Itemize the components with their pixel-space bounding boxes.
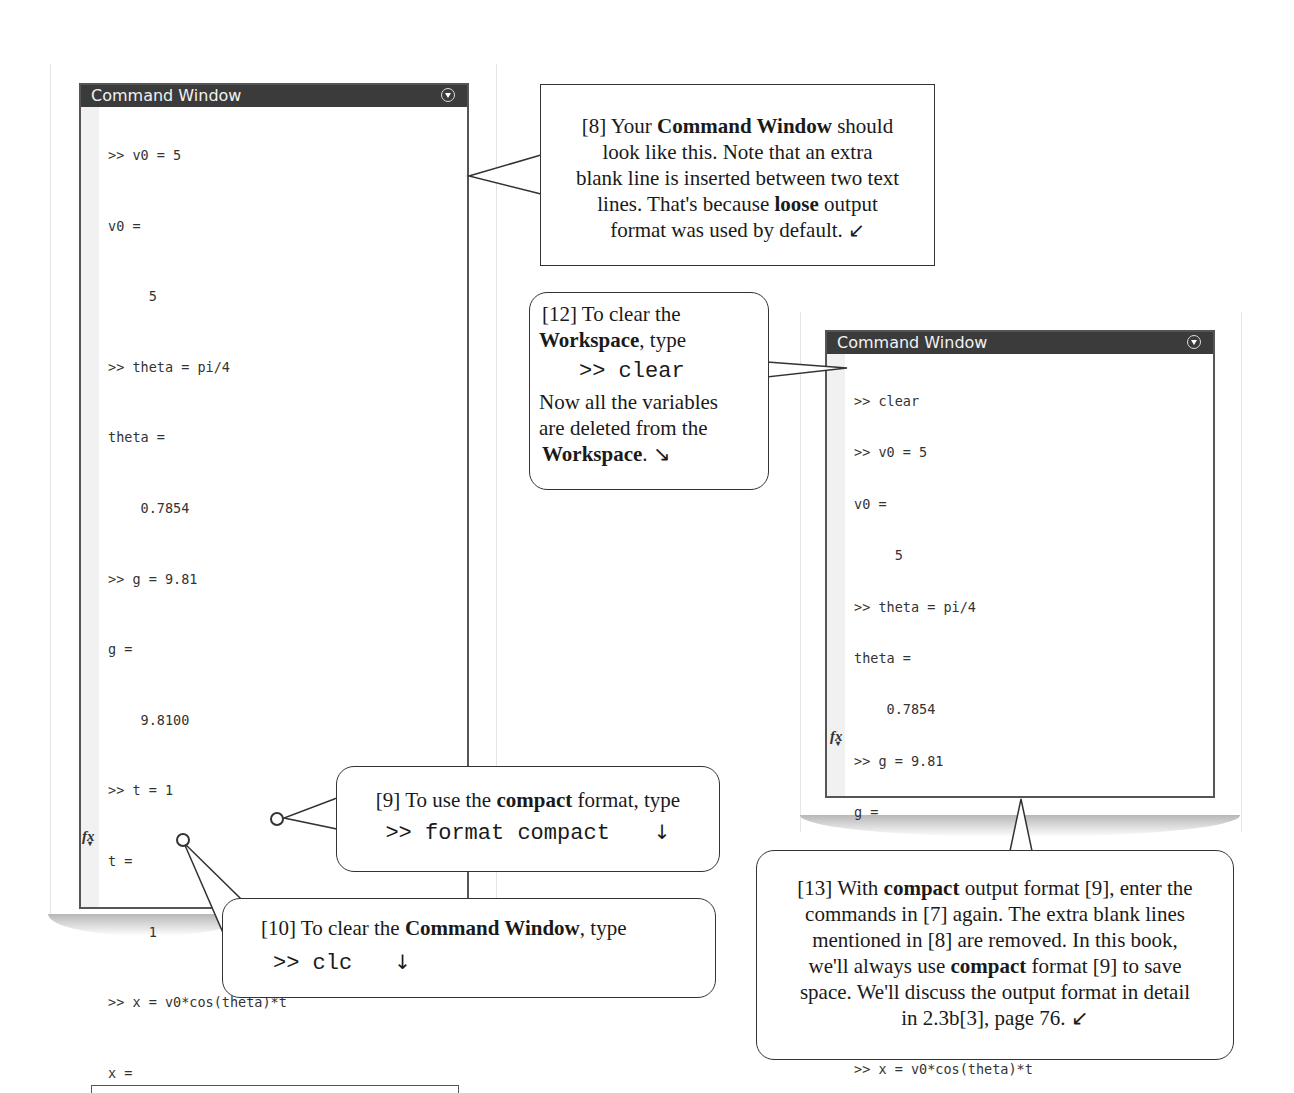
callout-note-8: [8] Your Command Window should look like… [540,84,935,266]
arrow-down-icon: ↓ [654,820,671,844]
command-window-title: Command Window [837,333,987,352]
console-line: v0 = [108,216,352,255]
console-line: >> v0 = 5 [854,443,1098,462]
next-section-box [91,1085,459,1093]
command-window-title-bar: Command Window [827,332,1213,354]
callout-note-13: [13] With compact output format [9], ent… [756,850,1234,1060]
callout-note-12: [12] To clear the Workspace, type >> cle… [529,292,769,490]
console-line: theta = [854,649,1098,668]
console-line: >> theta = pi/4 [108,357,352,396]
function-browser-icon[interactable]: fx▾ [82,828,95,845]
console-line: >> t = 1 [108,780,352,819]
command-window-body[interactable]: >> clear >> v0 = 5 v0 = 5 >> theta = pi/… [827,354,1213,796]
console-line: 0.7854 [854,700,1098,719]
console-line: >> v0 = 5 [108,145,352,184]
arrow-down-icon: ↓ [394,950,411,974]
console-line: g = [854,803,1098,822]
window-menu-icon[interactable] [441,88,455,102]
console-line: theta = [108,427,352,466]
pointer-ring-clc [176,833,190,847]
function-browser-icon[interactable]: fx▾ [830,728,843,745]
console-line: >> theta = pi/4 [854,598,1098,617]
console-line: g = [108,639,352,678]
command-example: >> format compact [385,821,609,846]
command-window-gutter [81,107,99,907]
window-menu-icon[interactable] [1187,335,1201,349]
console-line: 0.7854 [108,498,352,537]
console-line: 5 [854,546,1098,565]
console-line: >> g = 9.81 [108,569,352,608]
command-example: >> clear [539,353,768,389]
console-line: >> g = 9.81 [854,752,1098,771]
console-line: v0 = [854,495,1098,514]
callout-note-10: [10] To clear the Command Window, type >… [222,898,716,998]
callout-note-9: [9] To use the compact format, type >> f… [336,766,720,872]
console-line: >> clear [854,392,1098,411]
console-line: t = [108,851,352,890]
command-window-compact: Command Window >> clear >> v0 = 5 v0 = 5… [825,330,1215,798]
console-line: >> x = v0*cos(theta)*t [854,1060,1098,1079]
pointer-ring-format-compact [270,812,284,826]
command-window-title-bar: Command Window [81,85,467,107]
command-window-title: Command Window [91,86,241,105]
command-example: >> clc [273,951,352,976]
console-line: 5 [108,286,352,325]
console-line: 9.8100 [108,710,352,749]
arrow-down-left-icon: ↙ [848,218,865,242]
